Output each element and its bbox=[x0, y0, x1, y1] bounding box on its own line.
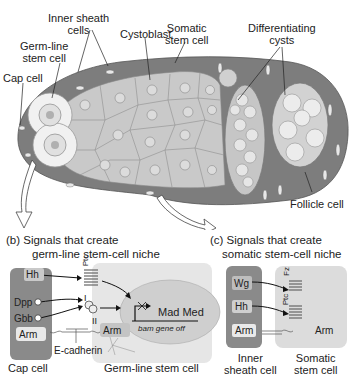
e-cadherin-label: E-cadherin bbox=[54, 345, 102, 356]
label-differentiating-cysts: Differentiating cysts bbox=[248, 22, 316, 46]
panel-c-title-1: (c) Signals that create bbox=[210, 234, 322, 247]
label-line: Somatic bbox=[165, 22, 208, 34]
label-line: cysts bbox=[248, 34, 316, 46]
label-cap-cell: Cap cell bbox=[3, 72, 43, 84]
label-somatic-stem-cell: Somatic stem cell bbox=[165, 22, 208, 46]
gbb-label: Gbb bbox=[14, 313, 33, 324]
caption-line: stem cell bbox=[294, 364, 337, 375]
label-line: cells bbox=[48, 24, 109, 36]
fz-receptor-label: Fz bbox=[281, 267, 292, 276]
arm-somatic-label: Arm bbox=[315, 325, 333, 336]
caption-line: Inner bbox=[224, 352, 277, 364]
hh-ligand-label: Hh bbox=[26, 269, 39, 280]
cap-cell-caption: Cap cell bbox=[8, 362, 48, 374]
receptor-ii-label: II bbox=[92, 316, 97, 327]
caption-line: sheath cell bbox=[224, 364, 277, 375]
bam-gene-label: bam gene off bbox=[138, 323, 185, 334]
arm-inner-label: Arm bbox=[235, 325, 253, 336]
label-germline-stem-cell: Germ-line stem cell bbox=[20, 40, 68, 64]
caption-line: Somatic bbox=[294, 352, 337, 364]
ptc-receptor-label: Ptc bbox=[80, 255, 91, 267]
inner-sheath-caption: Inner sheath cell bbox=[224, 352, 277, 375]
somatic-stem-caption: Somatic stem cell bbox=[294, 352, 337, 375]
panel-b-title-1: (b) Signals that create bbox=[6, 234, 119, 247]
ptc-receptor-c-label: Ptc bbox=[280, 294, 291, 306]
arm-germline-label: Arm bbox=[103, 325, 121, 336]
label-line: stem cell bbox=[20, 52, 68, 64]
arrow-to-b bbox=[16, 160, 36, 228]
label-inner-sheath: Inner sheath cells bbox=[48, 12, 109, 36]
hh-ligand-c-label: Hh bbox=[235, 301, 248, 312]
wg-ligand-label: Wg bbox=[234, 278, 249, 289]
arm-cap-label: Arm bbox=[19, 329, 37, 340]
label-line: Germ-line bbox=[20, 40, 68, 52]
dpp-label: Dpp bbox=[14, 297, 32, 308]
panel-c-title-2: somatic stem-cell niche bbox=[222, 248, 342, 261]
germline-cell-caption: Germ-line stem cell bbox=[104, 362, 199, 374]
label-cystoblast: Cystoblast bbox=[120, 28, 171, 40]
receptor-i-label: I bbox=[84, 293, 87, 304]
label-line: Differentiating bbox=[248, 22, 316, 34]
label-line: Inner sheath bbox=[48, 12, 109, 24]
label-follicle-cell: Follicle cell bbox=[290, 198, 344, 210]
mad-med-label: Mad Med bbox=[158, 307, 204, 318]
label-line: stem cell bbox=[165, 34, 208, 46]
panel-b-title-2: germ-line stem-cell niche bbox=[32, 248, 160, 261]
